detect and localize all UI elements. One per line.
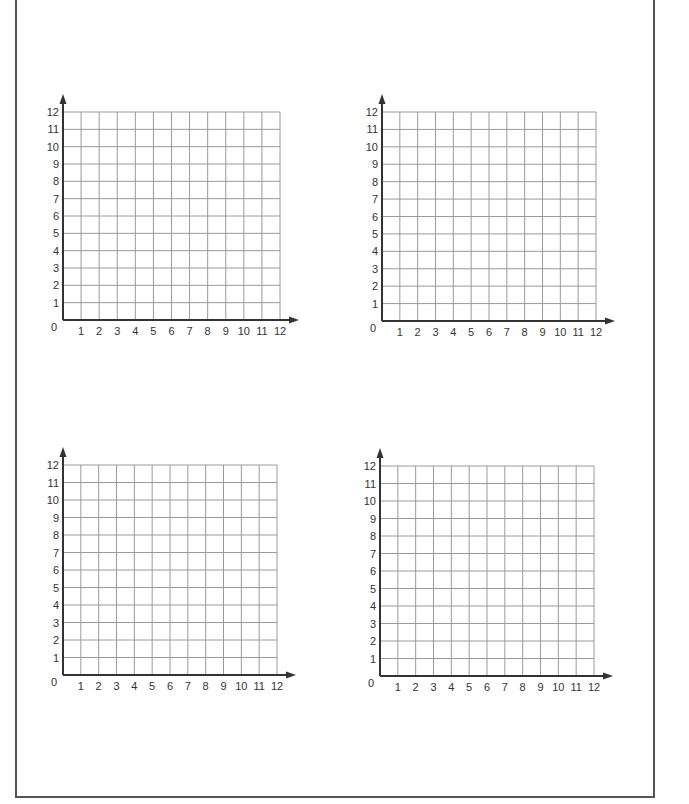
y-tick-label: 12 [47, 459, 59, 471]
x-tick-label: 11 [570, 681, 581, 693]
x-tick-label: 5 [466, 681, 472, 693]
y-tick-label: 7 [370, 548, 376, 560]
x-tick-label: 12 [588, 681, 600, 693]
x-tick-label: 8 [203, 680, 209, 692]
x-tick-label: 4 [450, 326, 456, 338]
x-tick-label: 4 [131, 680, 137, 692]
y-tick-label: 3 [53, 262, 59, 274]
y-tick-label: 8 [53, 175, 59, 187]
x-tick-label: 5 [150, 325, 156, 337]
x-tick-label: 11 [256, 325, 267, 337]
y-tick-label: 9 [372, 158, 378, 170]
y-tick-label: 9 [53, 512, 59, 524]
y-axis-arrow-icon [379, 94, 386, 104]
y-tick-label: 2 [370, 635, 376, 647]
origin-label: 0 [51, 676, 57, 688]
y-tick-label: 3 [370, 618, 376, 630]
y-tick-label: 7 [53, 193, 59, 205]
y-tick-label: 5 [53, 582, 59, 594]
x-tick-label: 10 [238, 325, 250, 337]
x-tick-label: 9 [220, 680, 226, 692]
x-tick-label: 1 [397, 326, 403, 338]
x-tick-label: 7 [502, 681, 508, 693]
y-tick-label: 10 [47, 494, 59, 506]
x-tick-label: 9 [537, 681, 543, 693]
x-tick-label: 6 [486, 326, 492, 338]
x-tick-label: 2 [413, 681, 419, 693]
coordinate-grids: 1234567891011121234567891011120123456789… [0, 0, 689, 804]
x-tick-label: 3 [113, 680, 119, 692]
x-tick-label: 2 [96, 680, 102, 692]
y-tick-label: 1 [370, 653, 376, 665]
x-tick-label: 10 [552, 681, 564, 693]
y-tick-label: 6 [53, 564, 59, 576]
x-tick-label: 3 [430, 681, 436, 693]
x-tick-label: 6 [167, 680, 173, 692]
grid-lines [63, 465, 277, 675]
y-tick-label: 12 [47, 106, 59, 118]
y-axis-arrow-icon [60, 94, 67, 104]
x-tick-label: 10 [235, 680, 247, 692]
y-tick-label: 11 [365, 478, 376, 490]
y-tick-label: 2 [53, 634, 59, 646]
y-tick-label: 2 [372, 280, 378, 292]
y-axis-arrow-icon [377, 448, 384, 458]
x-tick-label: 6 [484, 681, 490, 693]
x-tick-label: 1 [78, 680, 84, 692]
x-tick-label: 6 [168, 325, 174, 337]
x-tick-label: 11 [253, 680, 264, 692]
x-axis-arrow-icon [603, 673, 613, 680]
y-tick-label: 10 [364, 495, 376, 507]
x-tick-label: 2 [96, 325, 102, 337]
x-tick-label: 4 [448, 681, 454, 693]
x-tick-label: 12 [271, 680, 283, 692]
coordinate-grid-top-left: 1234567891011121234567891011120 [47, 94, 299, 337]
grid-lines [382, 112, 596, 321]
origin-label: 0 [51, 321, 57, 333]
x-axis-arrow-icon [605, 318, 615, 325]
x-tick-label: 9 [539, 326, 545, 338]
coordinate-grid-bottom-right: 1234567891011121234567891011120 [364, 448, 613, 693]
x-tick-label: 7 [187, 325, 193, 337]
x-axis-arrow-icon [286, 672, 296, 679]
x-tick-label: 7 [185, 680, 191, 692]
x-tick-label: 5 [468, 326, 474, 338]
x-tick-label: 3 [114, 325, 120, 337]
y-tick-label: 8 [53, 529, 59, 541]
y-tick-label: 2 [53, 279, 59, 291]
origin-label: 0 [368, 677, 374, 689]
y-tick-label: 12 [364, 460, 376, 472]
y-tick-label: 11 [48, 123, 59, 135]
y-tick-label: 12 [366, 106, 378, 118]
x-tick-label: 10 [554, 326, 566, 338]
y-tick-label: 5 [53, 227, 59, 239]
y-tick-label: 11 [48, 477, 59, 489]
y-tick-label: 5 [370, 583, 376, 595]
y-tick-label: 11 [367, 123, 378, 135]
x-tick-label: 1 [78, 325, 84, 337]
y-tick-label: 1 [53, 297, 59, 309]
y-tick-label: 10 [366, 141, 378, 153]
coordinate-grid-bottom-left: 1234567891011121234567891011120 [47, 447, 296, 692]
coordinate-grid-top-right: 1234567891011121234567891011120 [366, 94, 615, 338]
y-tick-label: 3 [372, 263, 378, 275]
grid-lines [380, 466, 594, 676]
y-tick-label: 3 [53, 617, 59, 629]
y-tick-label: 6 [53, 210, 59, 222]
y-tick-label: 4 [370, 600, 376, 612]
x-tick-label: 8 [520, 681, 526, 693]
y-axis-arrow-icon [60, 447, 67, 457]
y-tick-label: 9 [53, 158, 59, 170]
y-tick-label: 6 [370, 565, 376, 577]
x-tick-label: 8 [205, 325, 211, 337]
x-tick-label: 4 [132, 325, 138, 337]
y-tick-label: 8 [370, 530, 376, 542]
y-tick-label: 8 [372, 176, 378, 188]
y-tick-label: 4 [372, 245, 378, 257]
y-tick-label: 1 [372, 298, 378, 310]
y-tick-label: 9 [370, 513, 376, 525]
x-axis-arrow-icon [289, 317, 299, 324]
y-tick-label: 10 [47, 141, 59, 153]
x-tick-label: 5 [149, 680, 155, 692]
x-tick-label: 11 [572, 326, 583, 338]
